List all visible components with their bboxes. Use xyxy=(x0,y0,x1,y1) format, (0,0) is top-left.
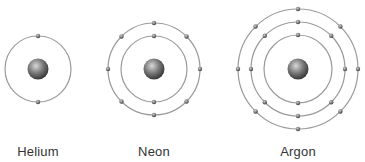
atom-neon xyxy=(106,21,202,117)
nucleus xyxy=(144,59,165,80)
electron xyxy=(119,99,123,103)
electron xyxy=(263,100,267,104)
electron xyxy=(263,34,267,38)
electron xyxy=(236,67,240,71)
label-neon: Neon xyxy=(138,144,170,159)
electron xyxy=(152,21,156,25)
electron xyxy=(249,67,253,71)
electron xyxy=(184,99,188,103)
atom-diagram xyxy=(0,0,365,162)
electron xyxy=(329,34,333,38)
nucleus xyxy=(288,59,309,80)
electron xyxy=(338,24,342,28)
electron xyxy=(338,109,342,113)
atom-argon xyxy=(236,7,360,131)
electron xyxy=(296,114,300,118)
electron xyxy=(184,34,188,38)
electron xyxy=(296,127,300,131)
electron xyxy=(152,113,156,117)
electron xyxy=(198,67,202,71)
label-helium: Helium xyxy=(17,144,59,159)
atom-helium xyxy=(5,34,71,104)
electron xyxy=(36,34,40,38)
electron xyxy=(343,67,347,71)
electron xyxy=(106,67,110,71)
electron xyxy=(296,20,300,24)
electron xyxy=(152,100,156,104)
electron xyxy=(253,109,257,113)
electron xyxy=(356,67,360,71)
electron xyxy=(296,7,300,11)
label-argon: Argon xyxy=(280,144,316,159)
electron xyxy=(36,100,40,104)
electron xyxy=(253,24,257,28)
electron xyxy=(152,34,156,38)
electron xyxy=(296,101,300,105)
electron xyxy=(329,100,333,104)
electron xyxy=(119,34,123,38)
nucleus xyxy=(28,59,49,80)
electron xyxy=(296,33,300,37)
